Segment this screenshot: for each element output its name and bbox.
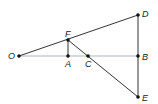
label-b: B <box>142 52 148 62</box>
geometry-diagram: O F A C D B E <box>0 0 158 104</box>
point-a <box>66 54 70 58</box>
point-e <box>136 95 140 99</box>
label-d: D <box>142 9 149 19</box>
label-c: C <box>85 59 92 69</box>
label-e: E <box>142 93 149 103</box>
segment-od <box>19 15 138 56</box>
label-a: A <box>64 59 71 69</box>
label-f: F <box>65 29 71 39</box>
segment-fe <box>68 40 138 97</box>
point-b <box>136 54 140 58</box>
label-o: O <box>8 51 15 61</box>
point-c <box>86 54 90 58</box>
point-d <box>136 13 140 17</box>
point-o <box>17 54 21 58</box>
